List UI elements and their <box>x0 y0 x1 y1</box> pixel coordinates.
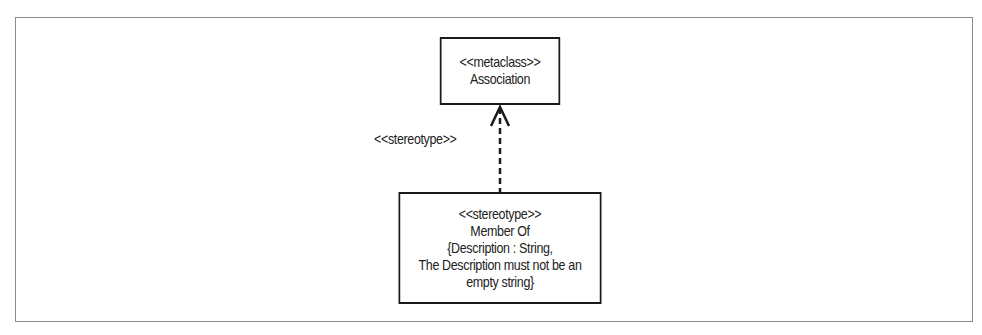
constraint-line-2: The Description must not be an <box>419 257 582 274</box>
stereotype-name: Member Of <box>470 223 529 240</box>
metaclass-name: Association <box>470 71 530 88</box>
stereotype-label: <<stereotype>> <box>459 206 542 223</box>
stereotype-member-of-box[interactable]: <<stereotype>> Member Of {Description : … <box>399 192 602 304</box>
constraint-line-1: {Description : String, <box>447 240 552 257</box>
constraint-line-3: empty string} <box>466 274 534 291</box>
metaclass-association-box[interactable]: <<metaclass>> Association <box>440 37 560 105</box>
relationship-stereotype-label: <<stereotype>> <box>374 131 457 148</box>
metaclass-stereotype-label: <<metaclass>> <box>460 54 541 71</box>
